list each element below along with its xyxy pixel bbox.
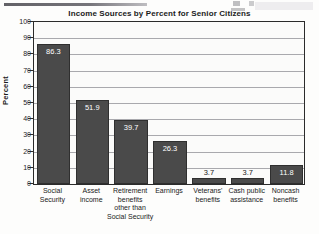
bar-value-label: 26.3 bbox=[154, 144, 185, 153]
bar: 39.7 bbox=[114, 120, 147, 184]
scan-artifact-smudge bbox=[233, 1, 240, 6]
bar-value-label: 3.7 bbox=[231, 168, 264, 177]
y-axis-tick-labels: 1009080706050403020100 bbox=[0, 21, 31, 185]
x-label-line: other than bbox=[102, 204, 158, 213]
scan-artifact-smudge bbox=[249, 1, 254, 6]
plot-inner: 86.351.939.726.33.73.711.8 bbox=[34, 22, 304, 184]
x-axis-label: Noncashbenefits bbox=[258, 187, 314, 204]
bar bbox=[192, 178, 225, 184]
gridline bbox=[34, 54, 304, 55]
bar-value-label: 51.9 bbox=[77, 103, 108, 112]
gridline bbox=[34, 71, 304, 72]
x-label-line: Noncash bbox=[258, 187, 314, 196]
scan-artifact-line bbox=[4, 3, 147, 6]
x-label-line: benefits bbox=[258, 196, 314, 205]
bar: 86.3 bbox=[37, 44, 70, 184]
x-label-line: Social Security bbox=[102, 213, 158, 222]
x-label-line: benefits bbox=[102, 196, 158, 205]
bar-value-label: 86.3 bbox=[38, 47, 69, 56]
gridline bbox=[34, 38, 304, 39]
bar-value-label: 3.7 bbox=[192, 168, 225, 177]
gridline bbox=[34, 135, 304, 136]
bar-value-label: 11.8 bbox=[271, 168, 302, 177]
chart-title: Income Sources by Percent for Senior Cit… bbox=[0, 9, 319, 18]
bar-value-label: 39.7 bbox=[115, 123, 146, 132]
gridline bbox=[34, 87, 304, 88]
scanned-page: Income Sources by Percent for Senior Cit… bbox=[0, 0, 319, 234]
plot-area: 86.351.939.726.33.73.711.8 bbox=[33, 21, 305, 185]
x-axis-category-labels: SocialSecurityAssetincomeRetirementbenef… bbox=[33, 187, 305, 234]
bar bbox=[231, 178, 264, 184]
bar: 51.9 bbox=[76, 100, 109, 184]
bar: 11.8 bbox=[270, 165, 303, 184]
gridline bbox=[34, 103, 304, 104]
gridline bbox=[34, 119, 304, 120]
bar: 26.3 bbox=[153, 141, 186, 184]
